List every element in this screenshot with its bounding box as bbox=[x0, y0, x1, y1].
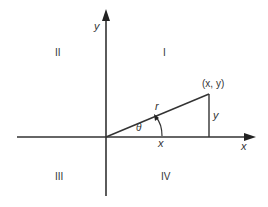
y-axis-label: y bbox=[94, 21, 100, 32]
quadrant-label-iv: IV bbox=[161, 172, 170, 182]
quadrant-label-ii: II bbox=[55, 48, 61, 58]
y-axis-arrowhead bbox=[102, 9, 110, 21]
quadrant-label-i: I bbox=[163, 48, 166, 58]
coordinate-diagram bbox=[0, 0, 268, 207]
point-label: (x, y) bbox=[202, 79, 224, 89]
horizontal-leg-label: x bbox=[158, 138, 164, 149]
angle-arc bbox=[156, 117, 162, 136]
angle-label: θ bbox=[136, 123, 141, 133]
quadrant-label-iii: III bbox=[55, 172, 63, 182]
vertical-leg-label: y bbox=[213, 110, 219, 121]
radius-label: r bbox=[155, 101, 159, 112]
x-axis-label: x bbox=[241, 141, 247, 152]
